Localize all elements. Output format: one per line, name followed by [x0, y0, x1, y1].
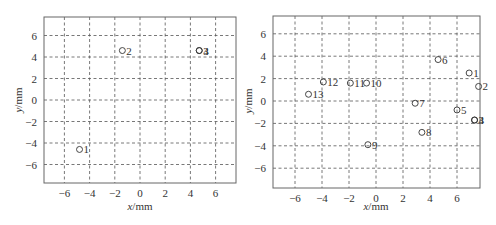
data-point-label: 4: [479, 114, 485, 126]
data-point-marker: [306, 91, 312, 97]
y-tick-label: 4: [32, 51, 38, 63]
x-tick-label: −4: [316, 192, 328, 204]
data-point-label: 7: [419, 97, 425, 109]
y-tick-label: 2: [32, 73, 38, 85]
data-point-marker: [476, 83, 482, 89]
y-tick-label: −2: [254, 117, 266, 129]
y-tick-label: −4: [25, 137, 37, 149]
data-point-label: 6: [442, 54, 448, 66]
x-tick-label: 4: [427, 192, 433, 204]
data-point-marker: [412, 100, 418, 106]
data-point-label: 5: [461, 104, 467, 116]
data-point-label: 10: [371, 77, 383, 89]
data-point-label: 8: [426, 126, 432, 138]
x-tick-label: 6: [454, 192, 460, 204]
y-tick-label: −2: [25, 116, 37, 128]
data-point-label: 2: [483, 80, 489, 92]
data-point-marker: [196, 48, 202, 54]
data-point-marker: [77, 146, 83, 152]
left-chart: −6−4−20246−6−4−20246x/mmy/mm1234: [12, 17, 236, 212]
y-tick-label: 0: [32, 94, 38, 106]
data-point-marker: [466, 70, 472, 76]
data-point-marker: [119, 48, 125, 54]
data-point-label: 12: [327, 76, 338, 88]
data-point-marker: [320, 79, 326, 85]
data-point-label: 1: [84, 143, 90, 155]
data-point-label: 2: [126, 45, 132, 57]
y-tick-label: −6: [254, 162, 266, 174]
y-axis-label: y/mm: [242, 88, 254, 115]
data-point-marker: [347, 80, 353, 86]
data-point-marker: [435, 57, 441, 63]
data-point-label: 4: [203, 45, 209, 57]
x-tick-label: 0: [137, 187, 143, 199]
y-tick-label: −6: [25, 159, 37, 171]
x-axis-label: x/mm: [362, 200, 389, 212]
y-tick-label: 2: [261, 73, 267, 85]
data-point-label: 11: [354, 77, 365, 89]
y-tick-label: 6: [32, 30, 38, 42]
x-tick-label: −4: [84, 187, 96, 199]
x-tick-label: −2: [109, 187, 121, 199]
y-tick-label: 0: [261, 95, 267, 107]
right-chart: −6−4−20246−6−4−20246x/mmy/mm123456789101…: [242, 16, 488, 212]
data-point-label: 1: [473, 67, 479, 79]
x-tick-label: −6: [289, 192, 301, 204]
plot-frame: [273, 16, 480, 188]
x-axis-label: x/mm: [126, 200, 153, 212]
data-point-marker: [472, 117, 478, 123]
figure: −6−4−20246−6−4−20246x/mmy/mm1234−6−4−202…: [0, 0, 496, 225]
y-tick-label: 4: [261, 50, 267, 62]
data-point-label: 9: [372, 139, 378, 151]
x-tick-label: 4: [188, 187, 194, 199]
x-tick-label: 2: [162, 187, 168, 199]
data-point-label: 13: [313, 88, 325, 100]
x-tick-label: −6: [59, 187, 71, 199]
data-point-marker: [365, 142, 371, 148]
y-tick-label: 6: [261, 28, 267, 40]
data-point-marker: [419, 129, 425, 135]
x-tick-label: 2: [400, 192, 406, 204]
x-tick-label: −2: [343, 192, 355, 204]
y-tick-label: −4: [254, 140, 266, 152]
y-axis-label: y/mm: [12, 87, 24, 114]
x-tick-label: 6: [213, 187, 219, 199]
